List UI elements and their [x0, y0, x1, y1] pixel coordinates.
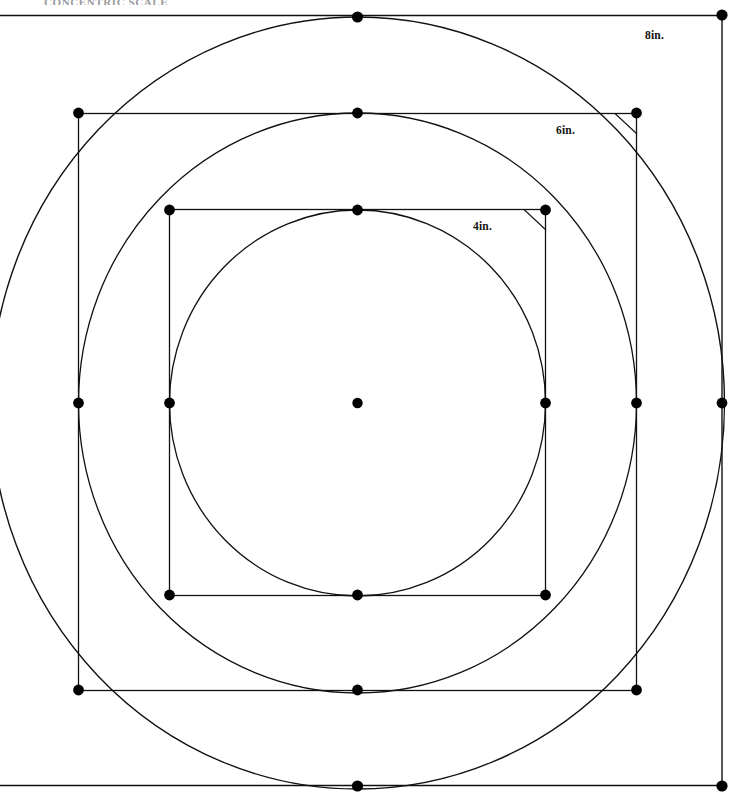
- node-dot: [352, 108, 363, 119]
- node-dot-center: [352, 398, 362, 408]
- node-dot: [716, 780, 727, 791]
- node-dot: [716, 9, 727, 20]
- figure-root: CONCENTRIC SCALE: [0, 0, 737, 809]
- node-dot: [164, 205, 175, 216]
- concentric-scale-drawing: [0, 0, 737, 809]
- node-dot: [164, 398, 175, 409]
- node-dot: [631, 398, 642, 409]
- dimension-label-8in: 8in.: [645, 29, 664, 41]
- node-dot: [540, 205, 551, 216]
- node-dot: [73, 685, 84, 696]
- node-dot: [540, 398, 551, 409]
- node-dot: [352, 780, 363, 791]
- node-dot: [352, 11, 363, 22]
- node-dot: [352, 205, 363, 216]
- node-dot: [631, 685, 642, 696]
- node-dot: [73, 108, 84, 119]
- node-dot: [352, 590, 363, 601]
- node-dot: [717, 398, 728, 409]
- node-dot: [631, 108, 642, 119]
- dimension-label-4in: 4in.: [473, 220, 492, 232]
- dimension-label-6in: 6in.: [556, 124, 575, 136]
- node-dot: [164, 590, 175, 601]
- node-dot: [73, 398, 84, 409]
- node-dot: [540, 590, 551, 601]
- node-dot: [352, 685, 363, 696]
